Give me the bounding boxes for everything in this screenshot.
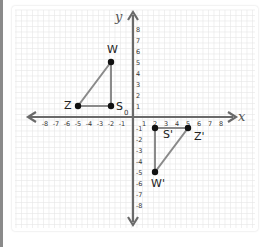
original-triangle-edges — [78, 62, 111, 106]
x-tick-label: 7 — [208, 120, 212, 128]
vertex-label: S — [116, 100, 123, 113]
vertex-label: Z — [64, 99, 72, 112]
vertex-point — [75, 103, 81, 109]
x-tick-label: 1 — [142, 120, 146, 128]
coordinate-plane: -8-7-6-5-4-3-2-11234567887654321-1-2-3-4… — [0, 0, 276, 247]
vertex-point — [108, 59, 114, 65]
x-tick-label: -4 — [86, 120, 92, 128]
y-tick-label: 1 — [136, 103, 140, 111]
y-tick-label: -7 — [136, 191, 142, 199]
y-tick-label: 6 — [136, 48, 140, 56]
x-tick-label: 4 — [175, 120, 179, 128]
x-tick-label: 3 — [164, 120, 168, 128]
x-tick-label: 6 — [197, 120, 201, 128]
y-tick-label: -3 — [136, 147, 142, 155]
x-tick-label: -8 — [42, 120, 48, 128]
y-tick-label: 7 — [136, 37, 140, 45]
y-tick-label: -2 — [136, 136, 142, 144]
x-tick-label: -5 — [75, 120, 81, 128]
y-tick-label: 5 — [136, 59, 140, 67]
y-tick-label: 4 — [136, 70, 140, 78]
origin-label: 0 — [124, 109, 128, 117]
original-triangle: WZS — [64, 43, 123, 113]
x-tick-label: -2 — [108, 120, 114, 128]
x-tick-label: -6 — [64, 120, 70, 128]
vertex-label: W' — [151, 177, 165, 190]
y-tick-label: -8 — [136, 202, 142, 210]
y-tick-label: 8 — [136, 26, 140, 34]
vertex-point — [152, 169, 158, 175]
x-tick-label: -7 — [53, 120, 59, 128]
vertex-label: Z' — [194, 130, 205, 143]
x-tick-label: -3 — [97, 120, 103, 128]
grid — [15, 10, 255, 228]
vertex-point — [152, 125, 158, 131]
vertex-label: W — [107, 43, 118, 56]
y-tick-label: -1 — [136, 125, 142, 133]
y-tick-label: 3 — [136, 81, 140, 89]
x-tick-label: 8 — [219, 120, 223, 128]
y-tick-label: -4 — [136, 158, 142, 166]
vertex-point — [108, 103, 114, 109]
x-tick-label: -1 — [119, 120, 125, 128]
vertex-label: S' — [163, 128, 173, 141]
y-tick-label: 2 — [136, 92, 140, 100]
vertex-point — [185, 125, 191, 131]
axes — [28, 12, 236, 225]
x-axis-label: x — [238, 109, 246, 124]
y-axis-label: y — [114, 9, 123, 24]
y-tick-label: -5 — [136, 169, 142, 177]
y-tick-label: -6 — [136, 180, 142, 188]
